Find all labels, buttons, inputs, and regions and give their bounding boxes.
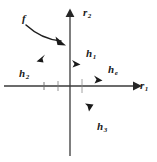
axis-label-r2: r2 xyxy=(83,3,91,20)
curved-arrow-icon xyxy=(26,25,61,41)
vector-label-h2-sub: 2 xyxy=(26,73,30,81)
vector-h2 xyxy=(37,55,46,63)
vector-h3 xyxy=(85,104,94,112)
vector-label-he-base: h xyxy=(108,63,114,75)
horizontal-axis xyxy=(4,82,142,91)
axis-label-r2-sub: 2 xyxy=(88,12,92,20)
vector-label-he: he xyxy=(108,60,118,77)
vector-label-h1-base: h xyxy=(86,47,92,59)
vector-label-h3: h3 xyxy=(97,117,107,134)
vector-arrowhead-icon xyxy=(85,104,94,112)
vector-label-he-sub: e xyxy=(115,69,118,77)
vector-diagram-figure: r2 r1 h1 h2 he h3 f xyxy=(0,0,157,162)
vector-label-h1: h1 xyxy=(86,44,96,61)
vector-label-h1-sub: 1 xyxy=(93,53,97,61)
axis-label-r1: r1 xyxy=(140,76,148,93)
axis-label-r1-base: r xyxy=(140,79,144,91)
axis-arrow-up-icon xyxy=(66,9,75,18)
annotation-label-f-base: f xyxy=(22,12,26,24)
annotation-curve-f xyxy=(26,25,66,46)
axis-label-r2-base: r xyxy=(83,6,87,18)
vector-label-h3-base: h xyxy=(97,120,103,132)
vertical-axis xyxy=(66,9,75,157)
vector-arrowhead-icon xyxy=(72,60,81,68)
axis-label-r1-sub: 1 xyxy=(145,85,149,93)
vector-h1 xyxy=(72,60,81,68)
vector-arrowhead-icon xyxy=(94,76,103,84)
vector-label-h3-sub: 3 xyxy=(104,126,108,134)
vector-he xyxy=(94,76,103,84)
vector-arrowhead-icon xyxy=(37,55,46,63)
vector-label-h2-base: h xyxy=(19,67,25,79)
annotation-label-f: f xyxy=(22,9,26,25)
vector-label-h2: h2 xyxy=(19,64,29,81)
curved-arrow-head-icon xyxy=(56,37,67,46)
